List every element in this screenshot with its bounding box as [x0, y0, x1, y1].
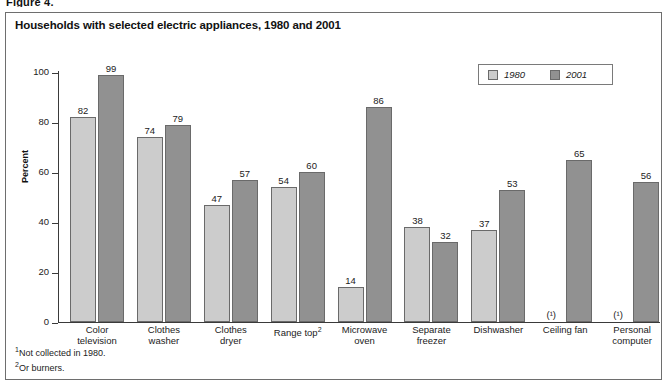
bar-2001[interactable]: 79 — [165, 125, 191, 323]
bar-value-label: 99 — [98, 63, 124, 74]
x-axis-category-label-line1: Ceiling fan — [543, 324, 588, 335]
bar-2001[interactable]: 86 — [366, 107, 392, 322]
y-axis-tick-mark — [52, 223, 58, 224]
not-available-marker: (¹) — [605, 309, 631, 320]
bar-value-label: 65 — [566, 148, 592, 159]
y-axis-title: Percent — [20, 150, 30, 183]
bar-group: 3832Separatefreezer — [402, 72, 469, 322]
bar-value-label: 37 — [471, 218, 497, 229]
figure-box: Households with selected electric applia… — [5, 12, 662, 380]
y-axis-tick-mark — [52, 73, 58, 74]
bar-2001[interactable]: 99 — [98, 75, 124, 323]
chart-title: Households with selected electric applia… — [15, 19, 341, 31]
bar-2001[interactable]: 56 — [633, 182, 659, 322]
x-axis-category-label-line1: Range top — [274, 327, 318, 338]
bar-value-label: 57 — [232, 168, 258, 179]
x-axis-category-label-line1: Color — [86, 324, 109, 335]
bar-value-label: 79 — [165, 113, 191, 124]
bar-value-label: 56 — [633, 170, 659, 181]
x-axis-line — [58, 322, 660, 323]
bar-2001[interactable]: 53 — [499, 190, 525, 323]
bar-2001[interactable]: 65 — [566, 160, 592, 323]
bar-value-label: 86 — [366, 95, 392, 106]
bar-1980[interactable]: 38 — [404, 227, 430, 322]
y-axis-tick-label: 100 — [33, 66, 49, 77]
bar-value-label: 53 — [499, 178, 525, 189]
bar-value-label: 54 — [271, 175, 297, 186]
y-axis-tick-mark — [52, 273, 58, 274]
not-available-marker: (¹) — [538, 309, 564, 320]
bar-2001[interactable]: 32 — [432, 242, 458, 322]
x-axis-category-label-line1: Clothes — [148, 324, 180, 335]
bar-1980[interactable]: 74 — [137, 137, 163, 322]
x-axis-category-label-line2: freezer — [417, 335, 447, 346]
figure-caption: Figure 4. — [6, 0, 54, 7]
bar-group: 8299Colortelevision — [68, 72, 135, 322]
bar-value-label: 82 — [70, 105, 96, 116]
bar-value-label: 38 — [404, 215, 430, 226]
x-axis-category-label: Personalcomputer — [593, 324, 670, 346]
x-axis-category-label-line2: oven — [354, 335, 375, 346]
y-axis-tick-mark — [52, 123, 58, 124]
footnote: 1Not collected in 1980. — [15, 344, 105, 359]
x-axis-category-label-line1: Microwave — [342, 324, 387, 335]
bar-group: (¹)56Personalcomputer — [603, 72, 670, 322]
x-axis-category-label-line1: Clothes — [215, 324, 247, 335]
bar-value-label: 32 — [432, 230, 458, 241]
y-axis-tick-mark — [52, 173, 58, 174]
bar-1980[interactable]: 47 — [204, 205, 230, 323]
x-axis-category-label-line2: computer — [612, 335, 652, 346]
x-axis-category-label-line1: Personal — [613, 324, 651, 335]
footnote-text: Or burners. — [19, 363, 65, 373]
footnote: 2Or burners. — [15, 359, 105, 374]
bar-value-label: 60 — [299, 160, 325, 171]
bar-1980[interactable]: 54 — [271, 187, 297, 322]
y-axis-tick-label: 80 — [38, 116, 49, 127]
bar-group: (¹)65Ceiling fan — [536, 72, 603, 322]
bar-1980[interactable]: 37 — [471, 230, 497, 323]
bar-group: 7479Clotheswasher — [135, 72, 202, 322]
bar-value-label: 14 — [338, 275, 364, 286]
bar-value-label: 74 — [137, 125, 163, 136]
bar-1980[interactable]: 14 — [338, 287, 364, 322]
y-axis-tick-label: 20 — [38, 266, 49, 277]
bar-group: 4757Clothesdryer — [202, 72, 269, 322]
bar-group: 5460Range top2 — [269, 72, 336, 322]
bar-2001[interactable]: 60 — [299, 172, 325, 322]
bar-group: 1486Microwaveoven — [336, 72, 403, 322]
y-axis-tick-label: 0 — [44, 316, 49, 327]
bar-2001[interactable]: 57 — [232, 180, 258, 323]
y-axis-tick-label: 40 — [38, 216, 49, 227]
footnotes: 1Not collected in 1980.2Or burners. — [15, 344, 105, 374]
x-axis-category-label-line2: dryer — [220, 335, 242, 346]
x-axis-label-footnote-marker: 2 — [318, 326, 322, 333]
plot-area: 020406080100 8299Colortelevision7479Clot… — [58, 73, 660, 323]
bar-group: 3753Dishwasher — [469, 72, 536, 322]
y-axis-line — [58, 71, 59, 323]
x-axis-category-label-line2: washer — [149, 335, 180, 346]
y-axis-tick-label: 60 — [38, 166, 49, 177]
footnote-text: Not collected in 1980. — [19, 348, 106, 358]
bar-1980[interactable]: 82 — [70, 117, 96, 322]
x-axis-category-label-line1: Dishwasher — [474, 324, 524, 335]
bar-value-label: 47 — [204, 193, 230, 204]
x-axis-category-label-line1: Separate — [412, 324, 451, 335]
